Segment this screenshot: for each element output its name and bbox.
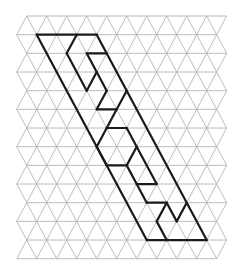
grid-diagonal-line — [27, 128, 37, 147]
grid-diagonal-line — [217, 35, 227, 54]
grid-diagonal-line — [57, 240, 67, 259]
grid-diagonal-line — [87, 203, 97, 222]
grid-diagonal-line — [197, 147, 207, 166]
grid-diagonal-line — [97, 240, 107, 259]
grid-diagonal-line — [137, 91, 147, 110]
grid-diagonal-line — [157, 109, 167, 128]
grid-diagonal-line — [147, 147, 157, 166]
grid-diagonal-line — [137, 72, 147, 91]
grid-diagonal-line — [137, 240, 147, 259]
grid-diagonal-line — [207, 53, 217, 72]
grid-diagonal-line — [97, 53, 107, 72]
grid-diagonal-line — [187, 53, 197, 72]
grid-diagonal-line — [47, 203, 57, 222]
grid-diagonal-line — [107, 147, 117, 166]
bold-outline-segment — [67, 35, 77, 54]
grid-diagonal-line — [37, 128, 47, 147]
grid-diagonal-line — [207, 35, 217, 54]
grid-diagonal-line — [87, 184, 97, 203]
grid-diagonal-line — [197, 165, 207, 184]
grid-diagonal-line — [177, 240, 187, 259]
grid-diagonal-line — [77, 221, 87, 240]
grid-diagonal-line — [27, 53, 37, 72]
grid-diagonal-line — [107, 221, 117, 240]
grid-diagonal-line — [107, 91, 117, 110]
grid-diagonal-line — [167, 16, 177, 35]
grid-diagonal-line — [17, 240, 27, 259]
bold-outline-segment — [97, 91, 107, 110]
grid-diagonal-line — [107, 203, 117, 222]
grid-diagonal-line — [127, 184, 137, 203]
grid-diagonal-line — [77, 128, 87, 147]
grid-diagonal-line — [197, 240, 207, 259]
grid-diagonal-line — [77, 240, 87, 259]
grid-diagonal-line — [17, 184, 27, 203]
grid-diagonal-line — [217, 184, 227, 203]
grid-diagonal-line — [147, 109, 157, 128]
grid-diagonal-line — [17, 128, 27, 147]
grid-diagonal-line — [217, 221, 227, 240]
grid-diagonal-line — [167, 53, 177, 72]
grid-diagonal-line — [187, 184, 197, 203]
grid-diagonal-line — [57, 16, 67, 35]
grid-diagonal-line — [117, 53, 127, 72]
grid-diagonal-line — [147, 91, 157, 110]
grid-diagonal-line — [27, 147, 37, 166]
grid-diagonal-line — [67, 109, 77, 128]
grid-diagonal-line — [207, 184, 217, 203]
grid-diagonal-line — [67, 147, 77, 166]
grid-diagonal-line — [47, 91, 57, 110]
grid-diagonal-line — [167, 184, 177, 203]
grid-diagonal-line — [147, 184, 157, 203]
grid-diagonal-line — [47, 72, 57, 91]
grid-diagonal-line — [177, 147, 187, 166]
grid-diagonal-line — [87, 35, 97, 54]
grid-diagonal-line — [127, 109, 137, 128]
grid-diagonal-line — [107, 184, 117, 203]
bold-outline-segment — [137, 184, 147, 203]
grid-diagonal-line — [17, 147, 27, 166]
grid-diagonal-line — [167, 109, 177, 128]
bold-outline-segment — [107, 109, 117, 128]
grid-diagonal-line — [217, 240, 227, 259]
grid-diagonal-line — [57, 147, 67, 166]
grid-diagonal-line — [27, 221, 37, 240]
grid-diagonal-line — [197, 91, 207, 110]
grid-diagonal-line — [157, 35, 167, 54]
grid-diagonal-line — [187, 72, 197, 91]
grid-diagonal-line — [47, 184, 57, 203]
grid-diagonal-line — [57, 184, 67, 203]
bold-outline-segment — [87, 72, 97, 91]
grid-diagonal-line — [157, 128, 167, 147]
grid-diagonal-line — [147, 72, 157, 91]
grid-diagonal-line — [137, 35, 147, 54]
grid-diagonal-line — [87, 165, 97, 184]
grid-diagonal-line — [77, 184, 87, 203]
grid-diagonal-line — [207, 16, 217, 35]
grid-diagonal-line — [97, 109, 107, 128]
grid-diagonal-line — [207, 147, 217, 166]
grid-diagonal-line — [167, 35, 177, 54]
grid-diagonal-line — [37, 184, 47, 203]
grid-diagonal-line — [57, 165, 67, 184]
bold-outline-segment — [127, 128, 137, 147]
grid-diagonal-line — [117, 240, 127, 259]
grid-diagonal-line — [17, 72, 27, 91]
grid-diagonal-line — [17, 91, 27, 110]
grid-diagonal-line — [47, 165, 57, 184]
grid-diagonal-line — [127, 53, 137, 72]
grid-diagonal-line — [97, 184, 107, 203]
grid-diagonal-line — [87, 16, 97, 35]
grid-diagonal-line — [197, 16, 207, 35]
grid-diagonal-line — [187, 16, 197, 35]
grid-diagonal-line — [57, 109, 67, 128]
grid-diagonal-line — [17, 16, 27, 35]
grid-diagonal-line — [197, 109, 207, 128]
bold-outline-segment — [127, 147, 137, 166]
grid-diagonal-line — [97, 16, 107, 35]
grid-diagonal-line — [197, 128, 207, 147]
grid-diagonal-line — [167, 72, 177, 91]
grid-diagonal-line — [97, 203, 107, 222]
grid-diagonal-line — [177, 221, 187, 240]
bold-outline-segment — [37, 35, 147, 240]
